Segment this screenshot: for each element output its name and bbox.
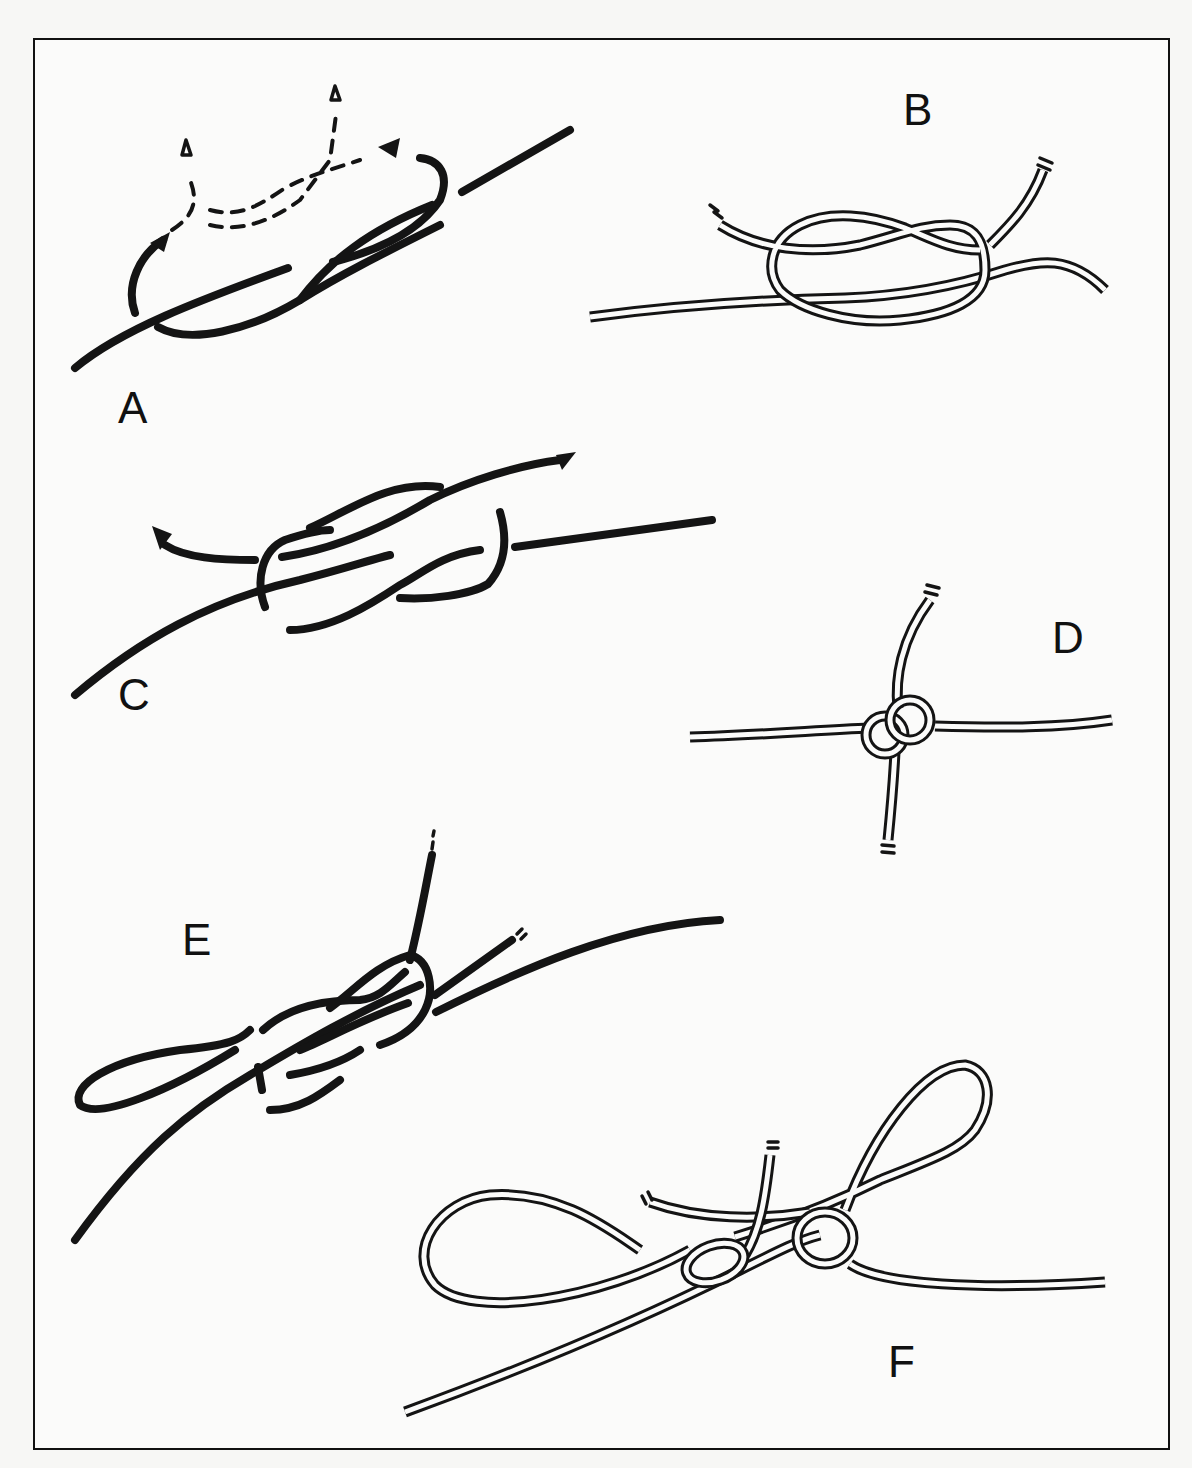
panel-label-d: D: [1052, 616, 1084, 660]
panel-label-b: B: [903, 88, 932, 132]
panel-label-a: A: [118, 386, 147, 430]
knot-illustration: [0, 0, 1192, 1468]
panel-label-e: E: [182, 918, 211, 962]
panel-a-drawing: [75, 86, 570, 368]
panel-f-drawing: [405, 1065, 1105, 1412]
panel-c-drawing: [75, 452, 712, 695]
panel-d-drawing: [690, 585, 1112, 853]
panel-label-f: F: [888, 1340, 915, 1384]
panel-b-drawing: [590, 158, 1105, 321]
panel-label-c: C: [118, 673, 150, 717]
panel-e-drawing: [75, 831, 720, 1240]
